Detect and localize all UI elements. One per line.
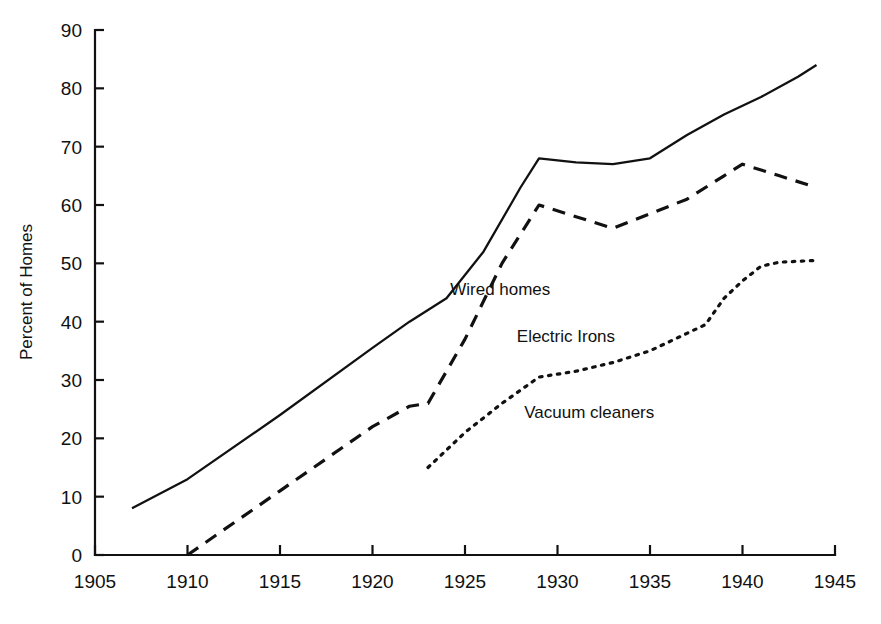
x-axis-tick-label: 1925 — [444, 571, 486, 592]
x-axis-tick-label: 1910 — [166, 571, 208, 592]
series-label-vacuum-cleaners: Vacuum cleaners — [524, 403, 654, 422]
series-label-electric-irons: Electric Irons — [517, 327, 615, 346]
y-axis-tick-label: 60 — [61, 195, 82, 216]
y-axis-tick-label: 90 — [61, 20, 82, 41]
y-axis-tick-label: 30 — [61, 370, 82, 391]
chart-background — [0, 0, 881, 624]
x-axis-tick-label: 1935 — [629, 571, 671, 592]
y-axis-tick-label: 50 — [61, 253, 82, 274]
y-axis-tick-label: 20 — [61, 428, 82, 449]
y-axis-title: Percent of Homes — [17, 224, 36, 360]
y-axis-tick-label: 0 — [71, 545, 82, 566]
line-chart: 0102030405060708090 19051910191519201925… — [0, 0, 881, 624]
x-axis-tick-label: 1930 — [536, 571, 578, 592]
chart-container: 0102030405060708090 19051910191519201925… — [0, 0, 881, 624]
x-axis-tick-label: 1915 — [259, 571, 301, 592]
x-axis-tick-label: 1940 — [721, 571, 763, 592]
x-axis-tick-label: 1920 — [351, 571, 393, 592]
series-label-wired-homes: Wired homes — [450, 280, 550, 299]
y-axis-tick-label: 10 — [61, 487, 82, 508]
x-axis-tick-label: 1945 — [814, 571, 856, 592]
y-axis-tick-label: 80 — [61, 78, 82, 99]
y-axis-tick-label: 70 — [61, 137, 82, 158]
x-axis-tick-label: 1905 — [74, 571, 116, 592]
y-axis-tick-label: 40 — [61, 312, 82, 333]
